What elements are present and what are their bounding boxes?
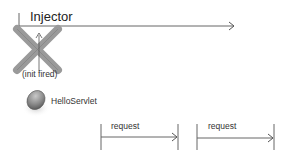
injector-label: Injector [30,9,73,24]
init-fired-note: (init fired) [22,69,57,79]
diagram-canvas: Injector (init fired) HelloServlet reque… [0,0,289,163]
request-label-1: request [111,121,139,131]
servlet-label: HelloServlet [51,96,97,106]
sphere-icon [22,87,50,117]
request-label-2: request [208,121,236,131]
